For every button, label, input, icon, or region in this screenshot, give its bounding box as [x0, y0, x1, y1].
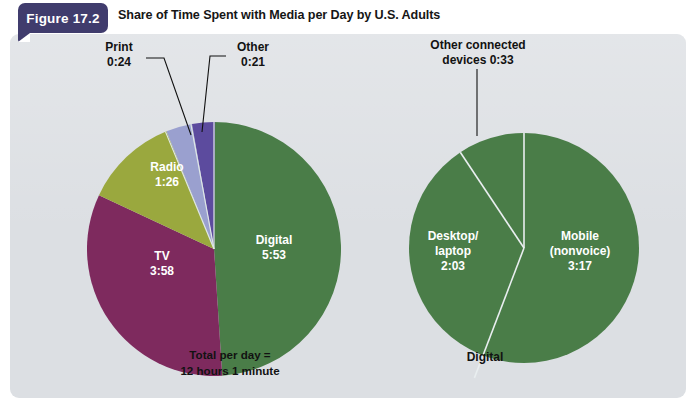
callout-label-ocd: Other connected	[430, 38, 525, 52]
callout-value-ocd: devices 0:33	[442, 53, 514, 67]
breakout-label-desktop: Desktop/	[428, 229, 479, 243]
callout-label-other: Other	[237, 40, 269, 54]
callout-value-other: 0:21	[241, 55, 265, 69]
breakout-label-mobile-2: (nonvoice)	[550, 244, 611, 258]
breakout-value-desktop: 2:03	[441, 259, 465, 273]
figure-title: Share of Time Spent with Media per Day b…	[118, 8, 440, 22]
breakout-value-mobile: 3:17	[568, 259, 592, 273]
breakout-label-desktop-2: laptop	[435, 244, 471, 258]
figure-number-badge: Figure 17.2	[18, 3, 108, 33]
total-line-1: Total per day =	[189, 348, 271, 361]
breakout-label-mobile: Mobile	[561, 229, 599, 243]
figure-root: Figure 17.2 Share of Time Spent with Med…	[0, 0, 695, 411]
slice-value-tv: 3:58	[150, 264, 174, 278]
slice-value-digital: 5:53	[262, 248, 286, 262]
slice-label-radio: Radio	[150, 160, 183, 174]
callout-value-print: 0:24	[107, 55, 131, 69]
leader-line-print	[146, 58, 191, 135]
slice-label-digital: Digital	[256, 233, 293, 247]
callout-label-print: Print	[105, 40, 132, 54]
charts-container: Digital 5:53 TV 3:58 Radio 1:26 Print 0:…	[10, 34, 686, 398]
breakout-caption-digital: Digital	[467, 350, 504, 364]
figure-badge-tail	[18, 33, 30, 42]
slice-value-radio: 1:26	[155, 175, 179, 189]
slice-label-tv: TV	[154, 249, 169, 263]
total-line-2: 12 hours 1 minute	[180, 364, 280, 377]
media-share-pie: Digital 5:53 TV 3:58 Radio 1:26 Print 0:…	[10, 34, 686, 398]
leader-line-other	[202, 56, 226, 132]
left-pie-slices	[87, 122, 341, 376]
digital-breakout-pie: Mobile (nonvoice) 3:17 Desktop/ laptop 2…	[409, 38, 639, 378]
left-pie-callouts: Print 0:24 Other 0:21	[105, 40, 269, 135]
